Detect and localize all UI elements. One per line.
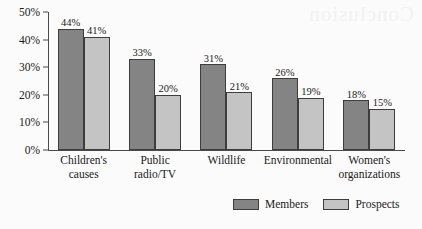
x-axis-line [48,150,405,151]
x-axis-category-line: Public [119,154,190,168]
x-axis-category-label: Publicradio/TV [119,154,190,181]
x-axis-category-label: Children'scauses [48,154,119,181]
bar-group: 33%20% [119,12,190,150]
y-axis-tick-label: 50% [19,6,40,18]
legend-item-members[interactable]: Members [233,198,308,210]
y-axis-tick-label: 30% [19,61,40,73]
bar-value-label: 20% [158,84,177,95]
bar-group: 44%41% [48,12,119,150]
bar-group: 26%19% [262,12,333,150]
bar-prospects[interactable]: 20% [155,95,181,150]
x-axis-category-line: Children's [48,154,119,168]
bar-group: 31%21% [191,12,262,150]
bar-value-label: 31% [204,54,223,65]
x-axis-category-label: Women'sorganizations [334,154,405,181]
chart-legend: MembersProspects [233,198,400,210]
x-axis-category-label: Environmental [262,154,333,168]
y-axis-tick-label: 0% [25,144,40,156]
bar-value-label: 41% [87,26,106,37]
x-axis-category-line: organizations [334,168,405,182]
y-axis-tick-label: 40% [19,34,40,46]
plot-area: 0%10%20%30%40%50%44%41%33%20%31%21%26%19… [48,12,405,150]
x-axis-category-line: radio/TV [119,168,190,182]
x-axis-category-label: Wildlife [191,154,262,168]
y-axis-tick-label: 10% [19,116,40,128]
x-axis-category-line: Environmental [262,154,333,168]
bar-group: 18%15% [334,12,405,150]
bar-prospects[interactable]: 21% [226,92,252,150]
bar-value-label: 44% [61,18,80,29]
bar-members[interactable]: 44% [58,29,84,150]
y-axis-tick-label: 20% [19,89,40,101]
bar-members[interactable]: 26% [272,78,298,150]
bar-value-label: 19% [301,87,320,98]
bar-members[interactable]: 18% [343,100,369,150]
bar-value-label: 26% [275,68,294,79]
legend-item-label: Members [265,198,308,210]
x-axis-category-line: Wildlife [191,154,262,168]
x-axis-category-line: causes [48,168,119,182]
bar-members[interactable]: 31% [200,64,226,150]
bar-value-label: 21% [230,82,249,93]
legend-swatch-icon [233,199,259,210]
bar-chart-figure: Conclusion 0%10%20%30%40%50%44%41%33%20%… [0,0,422,229]
legend-swatch-icon [323,199,349,210]
x-axis-category-line: Women's [334,154,405,168]
bar-prospects[interactable]: 19% [298,98,324,150]
bar-value-label: 15% [373,98,392,109]
legend-item-prospects[interactable]: Prospects [323,198,399,210]
bar-value-label: 18% [347,90,366,101]
bar-prospects[interactable]: 41% [84,37,110,150]
bar-value-label: 33% [132,48,151,59]
bar-members[interactable]: 33% [129,59,155,150]
bar-prospects[interactable]: 15% [369,109,395,150]
legend-item-label: Prospects [355,198,399,210]
